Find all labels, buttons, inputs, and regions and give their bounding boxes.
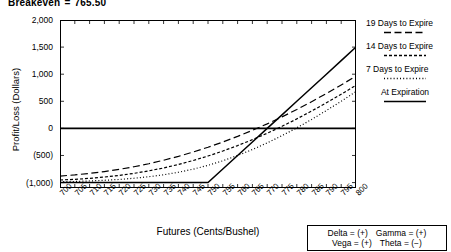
delta-label: Delta (328, 228, 348, 238)
theta-readout: Theta = (−) (376, 238, 426, 248)
legend-item-0[interactable]: 19 Days to Expire (366, 18, 451, 36)
gamma-readout: Gamma = (+) (372, 228, 431, 238)
greeks-row-1: Delta = (+) Gamma = (+) (311, 228, 443, 238)
series-short-dash (60, 85, 356, 180)
theta-equals: = (404, 238, 409, 248)
legend-label-0: 19 Days to Expire (366, 18, 451, 29)
legend-label-1: 14 Days to Expire (366, 41, 451, 52)
chart-legend: 19 Days to Expire14 Days to Expire7 Days… (366, 18, 451, 110)
legend-swatch-long-dash (366, 29, 451, 36)
vega-value: (+) (361, 238, 372, 248)
legend-item-2[interactable]: 7 Days to Expire (366, 64, 451, 82)
legend-swatch-solid (366, 98, 451, 105)
gamma-equals: = (408, 228, 413, 238)
payoff-curves (60, 20, 356, 188)
vega-label: Vega (332, 238, 351, 248)
series-solid (60, 47, 356, 182)
greeks-panel: Delta = (+) Gamma = (+) Vega = (+) Theta… (307, 225, 447, 251)
y-tick-0: 2,000 (5, 15, 53, 25)
legend-item-1[interactable]: 14 Days to Expire (366, 41, 451, 59)
y-axis-title: Profit/Loss (Dollars) (10, 26, 21, 194)
gamma-value: (+) (416, 228, 427, 238)
delta-readout: Delta = (+) (324, 228, 372, 238)
series-long-dash (60, 76, 356, 176)
series-dotted (60, 92, 356, 182)
legend-label-3: At Expiration (366, 87, 444, 98)
greeks-row-2: Vega = (+) Theta = (−) (311, 238, 443, 248)
legend-label-2: 7 Days to Expire (366, 64, 451, 75)
legend-swatch-short-dash (366, 52, 451, 59)
vega-readout: Vega = (+) (328, 238, 376, 248)
delta-equals: = (350, 228, 355, 238)
gamma-label: Gamma (376, 228, 406, 238)
vega-equals: = (354, 238, 359, 248)
theta-label: Theta (380, 238, 402, 248)
chart-canvas: Breakeven=765.50 2,0001,5001,0005000(500… (0, 0, 451, 252)
legend-swatch-dotted (366, 75, 451, 82)
theta-value: (−) (411, 238, 422, 248)
legend-item-3[interactable]: At Expiration (366, 87, 451, 105)
delta-value: (+) (357, 228, 368, 238)
plot-area (60, 20, 356, 188)
